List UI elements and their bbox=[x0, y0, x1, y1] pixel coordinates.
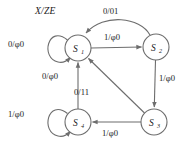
state-label-s1-sub: 1 bbox=[81, 48, 84, 55]
state-label-s2-name: S bbox=[151, 43, 156, 53]
edge-label-s1-to-s2: 1/φ0 bbox=[104, 33, 120, 42]
state-label-s1-name: S bbox=[73, 44, 78, 54]
state-label-s4-sub: 4 bbox=[81, 122, 84, 129]
transition-s3-to-s1-diagonal bbox=[89, 59, 145, 114]
state-node-s2[interactable] bbox=[143, 34, 169, 60]
edge-label-s3-to-s4: 1/φ0 bbox=[102, 129, 118, 138]
edge-label-s1-self: 0/φ0 bbox=[8, 40, 24, 49]
state-label-s2-sub: 2 bbox=[159, 47, 162, 54]
edge-label-s4-self: 1/φ0 bbox=[8, 110, 24, 119]
edge-label-s2-to-s3: 1/φ0 bbox=[159, 74, 175, 83]
state-label-s3-sub: 3 bbox=[156, 122, 160, 129]
edge-label-s2-to-s1: 0/01 bbox=[103, 7, 118, 16]
state-node-s3[interactable] bbox=[141, 109, 167, 135]
state-label-s3-name: S bbox=[149, 118, 154, 128]
edge-label-s4-to-s1: 0/φ0 bbox=[42, 72, 58, 81]
state-node-s1[interactable] bbox=[65, 35, 91, 61]
edge-label-s3-to-s1: 0/11 bbox=[74, 88, 89, 97]
transition-s2-to-s3-line bbox=[154, 60, 155, 107]
state-node-s4[interactable] bbox=[65, 109, 91, 135]
state-diagram: X/ZE S 1 bbox=[0, 0, 193, 148]
transition-s1-to-s2-line bbox=[91, 47, 142, 48]
state-label-s4-name: S bbox=[73, 118, 78, 128]
